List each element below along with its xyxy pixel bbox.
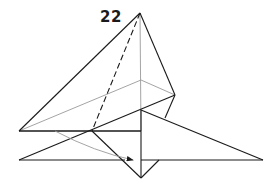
back-left-edge	[19, 80, 141, 131]
notch-edge	[141, 160, 159, 178]
dashed-valley-fold	[92, 13, 140, 131]
hidden-lines	[19, 13, 175, 131]
fold-arrow	[55, 131, 133, 160]
right-edge	[140, 13, 175, 95]
lower-fold-edge	[92, 131, 141, 178]
right-flap-top	[141, 110, 263, 160]
left-edge	[19, 13, 140, 131]
diagonal-edge	[19, 95, 175, 160]
fold-diagram	[0, 0, 280, 191]
